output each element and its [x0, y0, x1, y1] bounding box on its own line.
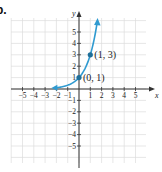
y-tick-label: 5 [72, 28, 76, 37]
x-tick-label: 4 [122, 91, 126, 100]
x-tick-label: 3 [111, 91, 115, 100]
y-tick-label: −1 [68, 96, 76, 105]
x-tick-label: −3 [41, 91, 49, 100]
curve-arrow-left-icon [51, 85, 57, 91]
y-tick-label: −3 [68, 119, 76, 128]
data-point [76, 75, 81, 80]
point-label: (0, 1) [83, 72, 105, 84]
y-tick-label: −5 [68, 142, 76, 151]
x-tick-label: −5 [19, 91, 27, 100]
point-label: (1, 3) [94, 49, 116, 61]
axes: xy [11, 9, 159, 168]
data-point [88, 52, 93, 57]
x-axis-label: x [154, 91, 159, 100]
x-tick-label: 2 [100, 91, 104, 100]
y-tick-label: 2 [72, 62, 76, 71]
x-tick-label: 1 [88, 91, 92, 100]
exponential-graph: xy −5−4−3−2−112345−5−4−3−2−112345 (0, 1)… [0, 0, 162, 172]
y-tick-label: 3 [72, 50, 76, 59]
x-tick-label: −4 [30, 91, 38, 100]
y-axis-arrow-icon [77, 11, 82, 17]
y-tick-label: −4 [68, 130, 76, 139]
y-tick-label: −2 [68, 107, 76, 116]
curve-arrow-up-icon [94, 18, 101, 26]
y-tick-label: 4 [72, 39, 76, 48]
x-tick-label: 5 [134, 91, 138, 100]
x-tick-label: −2 [52, 91, 60, 100]
y-axis-label: y [71, 9, 76, 18]
